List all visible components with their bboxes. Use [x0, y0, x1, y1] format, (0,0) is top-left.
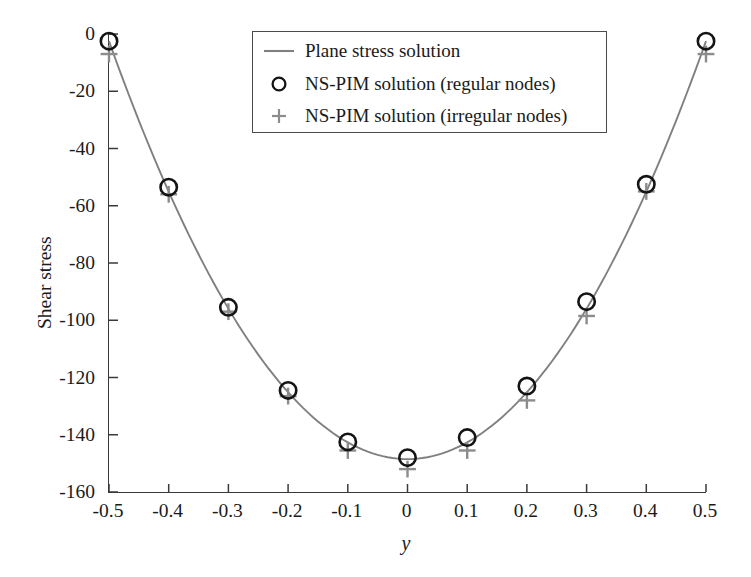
y-tick-label: -40	[69, 138, 95, 160]
y-tick-label: -80	[69, 252, 95, 274]
plus-marker-icon	[253, 106, 305, 126]
legend: Plane stress solution NS-PIM solution (r…	[252, 31, 607, 133]
x-tick-label: 0	[402, 500, 412, 522]
circle-marker-icon	[253, 74, 305, 94]
x-tick-label: 0.5	[693, 500, 717, 522]
legend-label: NS-PIM solution (regular nodes)	[305, 73, 556, 95]
line-swatch-icon	[253, 45, 305, 57]
x-tick-label: -0.3	[212, 500, 243, 522]
x-tick-label: -0.4	[152, 500, 183, 522]
x-tick-label: -0.2	[272, 500, 303, 522]
y-tick-label: -100	[59, 309, 95, 331]
legend-label: NS-PIM solution (irregular nodes)	[305, 105, 567, 127]
y-tick-label: -160	[59, 481, 95, 503]
y-tick-label: -140	[59, 424, 95, 446]
y-tick-label: -120	[59, 367, 95, 389]
y-axis-label: Shear stress	[34, 236, 56, 329]
x-tick-label: 0.3	[573, 500, 597, 522]
x-tick-label: -0.5	[93, 500, 124, 522]
y-tick-label: -60	[69, 195, 95, 217]
legend-entry-plane-stress: Plane stress solution	[253, 34, 606, 68]
x-tick-label: 0.2	[514, 500, 538, 522]
x-tick-label: 0.4	[633, 500, 657, 522]
legend-entry-irregular-nodes: NS-PIM solution (irregular nodes)	[253, 99, 606, 133]
figure: 0-20-40-60-80-100-120-140-160 -0.5-0.4-0…	[0, 0, 751, 577]
x-axis-label: y	[402, 532, 411, 555]
y-tick-label: 0	[85, 23, 95, 45]
x-tick-label: -0.1	[331, 500, 362, 522]
y-tick-label: -20	[69, 80, 95, 102]
legend-entry-regular-nodes: NS-PIM solution (regular nodes)	[253, 67, 606, 101]
x-tick-label: 0.1	[454, 500, 478, 522]
legend-label: Plane stress solution	[305, 40, 460, 62]
